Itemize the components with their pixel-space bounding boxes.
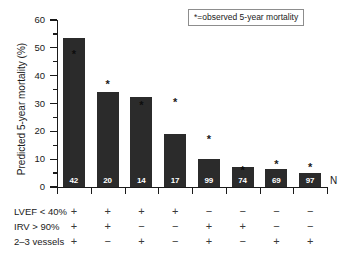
factor-sign: − [303, 205, 317, 218]
factor-sign: + [101, 205, 115, 218]
factor-sign: + [202, 235, 216, 248]
bar-n-count: 14 [130, 177, 152, 185]
y-tick-label: 60 [21, 15, 45, 25]
observed-mortality-marker: * [204, 137, 213, 141]
observed-mortality-marker: * [272, 162, 281, 166]
y-tick-minor [53, 172, 57, 173]
factor-sign: + [67, 235, 81, 248]
observed-mortality-marker: * [171, 100, 180, 104]
x-tick [192, 188, 193, 194]
x-tick [158, 188, 159, 194]
y-tick-label: 40 [21, 71, 45, 81]
bar-n-count: 99 [198, 177, 220, 185]
y-tick-minor [53, 117, 57, 118]
x-tick [293, 188, 294, 194]
factor-sign: − [269, 205, 283, 218]
factor-sign: + [303, 235, 317, 248]
factor-row: LVEF < 40%++++−−−− [0, 205, 347, 220]
factor-sign: − [236, 205, 250, 218]
factor-sign: + [168, 205, 182, 218]
y-tick-label: 50 [21, 43, 45, 53]
factor-row: 2–3 vessels+−+−+−++ [0, 235, 347, 250]
y-tick-major [50, 47, 57, 48]
factor-sign: + [134, 205, 148, 218]
x-tick [327, 188, 328, 194]
y-tick-major [50, 19, 57, 20]
y-tick-label: 0 [21, 182, 45, 192]
y-tick-major [50, 103, 57, 104]
factor-sign: − [168, 235, 182, 248]
bar-n-count: 74 [232, 177, 254, 185]
bar [97, 92, 119, 187]
y-tick-minor [53, 61, 57, 62]
bar-n-count: 69 [265, 177, 287, 185]
observed-mortality-marker: * [137, 103, 146, 107]
y-tick-label: 30 [21, 99, 45, 109]
bar [63, 38, 85, 187]
legend-box: *=observed 5-year mortality [188, 9, 304, 26]
factor-row: IRV > 90%++−−++−− [0, 220, 347, 235]
observed-mortality-marker: * [103, 82, 112, 86]
y-axis-line [57, 20, 58, 188]
bar-n-count: 20 [97, 177, 119, 185]
factor-sign: + [269, 235, 283, 248]
y-tick-label: 10 [21, 154, 45, 164]
factor-sign: + [101, 220, 115, 233]
factor-sign: + [67, 220, 81, 233]
y-tick-minor [53, 33, 57, 34]
factor-sign: + [202, 220, 216, 233]
chart-figure: *=observed 5-year mortality Predicted 5-… [0, 0, 347, 259]
factor-sign: − [134, 220, 148, 233]
factor-sign: − [101, 235, 115, 248]
factor-table: LVEF < 40%++++−−−−IRV > 90%++−−++−−2–3 v… [0, 205, 347, 250]
n-axis-label: N [330, 176, 337, 186]
x-tick [226, 188, 227, 194]
factor-sign: − [303, 220, 317, 233]
observed-mortality-marker: * [69, 52, 78, 56]
factor-sign: + [67, 205, 81, 218]
x-tick [57, 188, 58, 194]
x-tick [125, 188, 126, 194]
x-tick [91, 188, 92, 194]
y-tick-label: 20 [21, 126, 45, 136]
legend-text: *=observed 5-year mortality [194, 12, 298, 22]
factor-sign: + [134, 235, 148, 248]
y-tick-major [50, 186, 57, 187]
observed-mortality-marker: * [306, 165, 315, 169]
factor-sign: − [202, 205, 216, 218]
factor-sign: − [236, 235, 250, 248]
y-tick-minor [53, 89, 57, 90]
bar-n-count: 97 [299, 177, 321, 185]
observed-mortality-marker: * [238, 168, 247, 172]
y-tick-major [50, 159, 57, 160]
y-tick-major [50, 75, 57, 76]
y-tick-minor [53, 145, 57, 146]
factor-sign: − [168, 220, 182, 233]
bar-n-count: 42 [63, 177, 85, 185]
factor-sign: − [269, 220, 283, 233]
x-tick [260, 188, 261, 194]
bar-n-count: 17 [164, 177, 186, 185]
factor-sign: + [236, 220, 250, 233]
y-tick-major [50, 131, 57, 132]
